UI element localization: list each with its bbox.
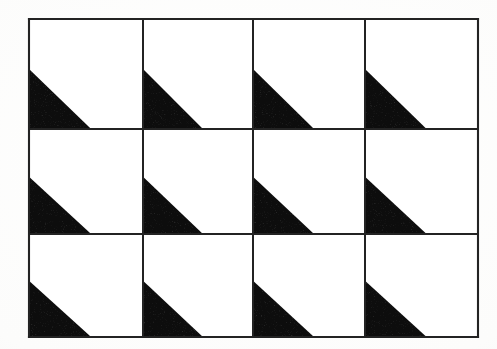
figure-canvas: [0, 0, 497, 349]
triangle-grid-figure: [29, 19, 478, 337]
pattern-svg: [29, 19, 478, 337]
